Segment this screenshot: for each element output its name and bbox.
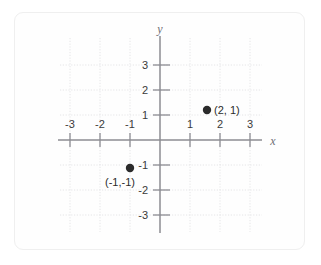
- point-label-2-1: (2, 1): [214, 104, 240, 116]
- x-axis-tick-labels: -3 -2 -1 1 2 3: [65, 118, 253, 130]
- point-marker-neg1-neg1: [126, 164, 134, 172]
- y-axis-label: y: [156, 22, 163, 36]
- tick-label-y-neg3: -3: [138, 209, 148, 221]
- coordinate-plane-svg: -3 -2 -1 1 2 3 3 2 1 -1 -2 -3 y x (2, 1)…: [0, 0, 321, 265]
- x-axis-label: x: [269, 134, 276, 148]
- tick-label-y-1: 1: [142, 109, 148, 121]
- tick-label-x-neg1: -1: [125, 118, 135, 130]
- point-marker-2-1: [203, 106, 211, 114]
- point-label-neg1-neg1: (-1,-1): [105, 176, 135, 188]
- tick-label-y-neg1: -1: [138, 159, 148, 171]
- tick-label-y-neg2: -2: [138, 184, 148, 196]
- tick-label-y-3: 3: [142, 59, 148, 71]
- tick-label-y-2: 2: [142, 84, 148, 96]
- tick-label-x-neg2: -2: [95, 118, 105, 130]
- tick-label-x-3: 3: [247, 118, 253, 130]
- tick-label-x-1: 1: [187, 118, 193, 130]
- tick-label-x-neg3: -3: [65, 118, 75, 130]
- tick-label-x-2: 2: [217, 118, 223, 130]
- coordinate-plane-plot: -3 -2 -1 1 2 3 3 2 1 -1 -2 -3 y x (2, 1)…: [0, 0, 321, 265]
